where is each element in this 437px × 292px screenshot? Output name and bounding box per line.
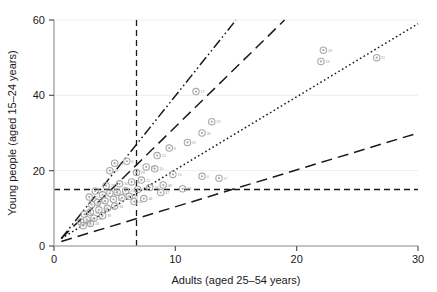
y-tick-label: 60 xyxy=(33,14,45,26)
data-point-label: 27 xyxy=(114,169,118,173)
data-point-label: 36 xyxy=(103,208,107,212)
data-point-label: 8 xyxy=(174,147,176,151)
data-point-center xyxy=(322,49,324,51)
data-point-label: 17 xyxy=(224,177,228,181)
data-point-label: 25 xyxy=(130,189,134,193)
y-tick-label: 0 xyxy=(39,240,45,252)
data-point-center xyxy=(182,188,184,190)
data-point-center xyxy=(140,179,142,181)
data-point-center xyxy=(101,194,103,196)
data-point-label: 11 xyxy=(381,56,385,60)
data-point-label: 24 xyxy=(326,60,330,64)
x-tick-label: 20 xyxy=(291,253,303,265)
data-point-center xyxy=(109,170,111,172)
data-point-label: 43 xyxy=(95,222,99,226)
data-point-center xyxy=(156,155,158,157)
data-point-label: 47 xyxy=(165,191,169,195)
data-point-label: 19 xyxy=(114,192,118,196)
data-point-label: 3 xyxy=(127,196,129,200)
data-point-center xyxy=(135,171,137,173)
data-point-label: 50 xyxy=(94,196,98,200)
data-point-center xyxy=(91,203,93,205)
data-point-label: 44 xyxy=(88,224,92,228)
data-point-label: 26 xyxy=(207,132,211,136)
data-point-center xyxy=(88,196,90,198)
data-point-center xyxy=(124,190,126,192)
data-point-center xyxy=(172,173,174,175)
x-tick-label: 0 xyxy=(51,253,57,265)
chart-background xyxy=(0,0,437,292)
data-point-center xyxy=(195,90,197,92)
data-point-label: 32 xyxy=(102,201,106,205)
data-point-center xyxy=(149,187,151,189)
data-point-label: 46 xyxy=(148,197,152,201)
data-point-label: 4 xyxy=(207,175,209,179)
data-point-label: 28 xyxy=(111,184,115,188)
data-point-label: 21 xyxy=(119,162,123,166)
data-point-label: 15 xyxy=(178,173,182,177)
data-point-center xyxy=(118,183,120,185)
data-point-center xyxy=(145,166,147,168)
y-tick-label: 20 xyxy=(33,165,45,177)
data-point-label: 49 xyxy=(187,187,191,191)
data-point-label: 34 xyxy=(119,205,123,209)
data-point-center xyxy=(160,191,162,193)
data-point-label: 31 xyxy=(192,141,196,145)
data-point-label: 9 xyxy=(142,188,144,192)
data-point-center xyxy=(211,121,213,123)
data-point-center xyxy=(131,181,133,183)
data-point-label: 1 xyxy=(110,199,112,203)
data-point-center xyxy=(82,225,84,227)
data-point-label: 29 xyxy=(141,171,145,175)
data-point-center xyxy=(320,60,322,62)
data-point-label: 51 xyxy=(100,190,104,194)
plot-area: 2324111713263181221614102729154172253028… xyxy=(0,0,437,292)
data-point-center xyxy=(133,200,135,202)
data-point-label: 48 xyxy=(168,184,172,188)
data-point-center xyxy=(114,162,116,164)
data-point-label: 37 xyxy=(95,211,99,215)
data-point-center xyxy=(201,132,203,134)
data-point-center xyxy=(186,141,188,143)
data-point-label: 39 xyxy=(107,214,111,218)
data-point-center xyxy=(105,185,107,187)
data-point-center xyxy=(218,177,220,179)
data-point-center xyxy=(137,188,139,190)
y-tick-label: 40 xyxy=(33,89,45,101)
data-point-label: 16 xyxy=(118,198,122,202)
data-point-label: 30 xyxy=(124,182,128,186)
data-point-center xyxy=(83,213,85,215)
data-point-center xyxy=(154,168,156,170)
data-point-label: 17 xyxy=(201,90,205,94)
scatter-chart: 2324111713263181221614102729154172253028… xyxy=(0,0,437,292)
data-point-label: 10 xyxy=(159,167,163,171)
data-point-center xyxy=(201,175,203,177)
data-point-label: 22 xyxy=(146,179,150,183)
data-point-center xyxy=(112,198,114,200)
data-point-center xyxy=(143,197,145,199)
x-axis-label: Adults (aged 25–54 years) xyxy=(171,274,300,286)
data-point-label: 7 xyxy=(107,193,109,197)
data-point-label: 13 xyxy=(216,120,220,124)
data-point-center xyxy=(168,147,170,149)
data-point-label: 40 xyxy=(99,217,103,221)
x-tick-label: 10 xyxy=(169,253,181,265)
data-point-label: 18 xyxy=(154,186,158,190)
data-point-label: 6 xyxy=(131,160,133,164)
data-point-label: 23 xyxy=(328,49,332,53)
data-point-center xyxy=(126,160,128,162)
y-axis-label: Young people (aged 15–24 years) xyxy=(6,50,18,215)
data-point-center xyxy=(162,184,164,186)
data-point-label: 35 xyxy=(112,207,116,211)
data-point-center xyxy=(94,190,96,192)
data-point-center xyxy=(376,57,378,59)
data-point-label: 5 xyxy=(136,181,138,185)
x-tick-label: 30 xyxy=(412,253,424,265)
data-point-label: 12 xyxy=(162,154,166,158)
